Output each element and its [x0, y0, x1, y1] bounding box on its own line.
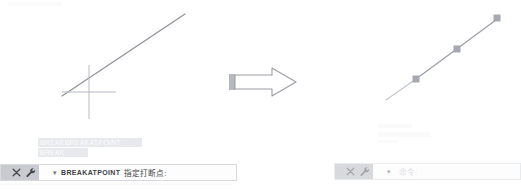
transition-arrow [228, 66, 298, 98]
grip-point-2[interactable] [454, 46, 461, 53]
drawing-panel-before [0, 0, 225, 160]
command-line-bar[interactable]: ▾ BREAKATPOINT 指定打断点: [0, 164, 237, 181]
result-line-segment-a [386, 79, 416, 100]
grip-point-1[interactable] [413, 76, 420, 83]
suggestion-label: BREAK [40, 149, 65, 156]
ghost-artifact-baseline [0, 183, 521, 186]
arrow-tail-block [229, 74, 235, 90]
command-prompt-text: 命令: [399, 166, 417, 177]
command-suggestion-list[interactable]: BREAKBREAKATPOINT BREAK [38, 138, 142, 158]
command-line-toolbar [1, 165, 39, 180]
command-line-toolbar [335, 164, 373, 179]
suggestion-label: BREAKATPOINT [65, 139, 121, 146]
suggestion-item[interactable]: BREAKBREAKATPOINT [38, 138, 142, 147]
grip-point-3[interactable] [494, 15, 501, 22]
close-icon[interactable] [345, 166, 356, 177]
drawing-panel-after [330, 0, 521, 160]
command-prompt-text: 指定打断点: [124, 167, 166, 178]
wrench-icon[interactable] [25, 167, 36, 178]
suggestion-item[interactable]: BREAK [38, 148, 88, 157]
right-block-arrow-icon [235, 68, 296, 96]
close-icon[interactable] [11, 167, 22, 178]
chevron-down-icon[interactable]: ▾ [53, 169, 57, 176]
command-name: BREAKATPOINT [61, 169, 120, 176]
drag-handle-icon[interactable] [338, 166, 342, 177]
illustration-canvas: BREAKBREAKATPOINT BREAK ▾ BREAKATPOINT 指… [0, 0, 521, 189]
crosshair-cursor [62, 65, 116, 119]
source-line [62, 14, 185, 96]
chevron-down-icon[interactable]: ▾ [387, 168, 391, 175]
command-line-bar[interactable]: ▾ 命令: [334, 163, 521, 180]
command-input[interactable]: ▾ BREAKATPOINT 指定打断点: [39, 165, 236, 180]
wrench-icon[interactable] [359, 166, 370, 177]
suggestion-prefix: BREAK [40, 139, 65, 146]
command-input[interactable]: ▾ 命令: [373, 164, 520, 179]
drag-handle-icon[interactable] [4, 167, 8, 178]
